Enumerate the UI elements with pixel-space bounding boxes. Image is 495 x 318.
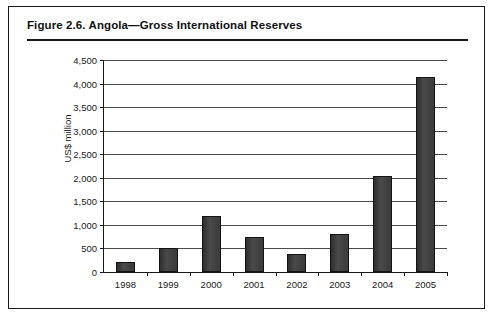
y-axis-tick-label: 2,500 [73, 149, 97, 160]
x-axis-tick-label: 2004 [372, 279, 393, 290]
gridline [104, 84, 447, 85]
y-axis-tick-label: 1,000 [73, 219, 97, 230]
y-axis-title: US$ million [62, 79, 73, 199]
x-axis-tick-label: 2003 [329, 279, 350, 290]
bar-2002 [287, 254, 306, 272]
x-axis-tick-mark [276, 272, 277, 276]
y-axis-tick-mark [100, 107, 104, 108]
x-axis-tick-label: 2001 [243, 279, 264, 290]
gridline [104, 107, 447, 108]
y-axis-tick-label: 3,000 [73, 125, 97, 136]
x-axis-tick-mark [190, 272, 191, 276]
y-axis-tick-mark [100, 131, 104, 132]
y-axis-tick-label: 3,500 [73, 102, 97, 113]
title-divider [27, 39, 468, 41]
y-axis-tick-label: 4,000 [73, 78, 97, 89]
x-axis-tick-mark [233, 272, 234, 276]
gridline [104, 178, 447, 179]
gridline [104, 154, 447, 155]
bar-2001 [245, 237, 264, 272]
x-axis-tick-label: 2002 [286, 279, 307, 290]
bar-2003 [330, 234, 349, 272]
figure-title: Figure 2.6. Angola—Gross International R… [27, 19, 467, 31]
x-axis-tick-label: 2000 [201, 279, 222, 290]
x-axis-tick-mark [318, 272, 319, 276]
plot-area: 05001,0001,5002,0002,5003,0003,5004,0004… [103, 60, 447, 273]
y-axis-tick-mark [100, 84, 104, 85]
y-axis-tick-label: 2,000 [73, 172, 97, 183]
y-axis-tick-mark [100, 178, 104, 179]
x-axis-tick-label: 1998 [115, 279, 136, 290]
y-axis-tick-mark [100, 154, 104, 155]
bar-2004 [373, 176, 392, 272]
y-axis-tick-label: 500 [81, 243, 97, 254]
y-axis-tick-mark [100, 201, 104, 202]
y-axis-tick-mark [100, 225, 104, 226]
gridline [104, 201, 447, 202]
bar-1999 [159, 248, 178, 272]
x-axis-tick-mark [404, 272, 405, 276]
bar-2000 [202, 216, 221, 272]
x-axis-tick-label: 1999 [158, 279, 179, 290]
x-axis-tick-mark [447, 272, 448, 276]
y-axis-tick-label: 0 [92, 267, 97, 278]
gridline [104, 131, 447, 132]
gridline [104, 248, 447, 249]
bar-2005 [416, 77, 435, 273]
y-axis-tick-label: 4,500 [73, 55, 97, 66]
x-axis-tick-mark [361, 272, 362, 276]
x-axis-tick-mark [147, 272, 148, 276]
chart-area: US$ million 05001,0001,5002,0002,5003,00… [27, 47, 468, 299]
bar-1998 [116, 262, 135, 272]
y-axis-tick-mark [100, 272, 104, 273]
y-axis-tick-mark [100, 60, 104, 61]
gridline [104, 60, 447, 61]
y-axis-tick-mark [100, 248, 104, 249]
x-axis-tick-label: 2005 [415, 279, 436, 290]
figure-frame: Figure 2.6. Angola—Gross International R… [8, 6, 485, 309]
gridline [104, 225, 447, 226]
y-axis-tick-label: 1,500 [73, 196, 97, 207]
